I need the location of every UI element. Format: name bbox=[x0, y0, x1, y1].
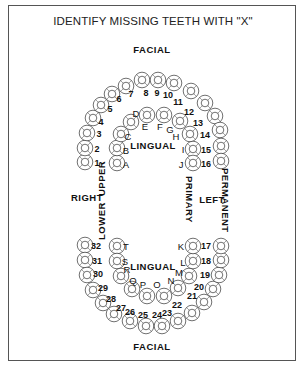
tooth-label-16: 16 bbox=[201, 159, 211, 169]
tooth-label-20: 20 bbox=[194, 282, 204, 292]
tooth-occlusal-icon bbox=[89, 286, 97, 294]
tooth-H[interactable] bbox=[182, 126, 198, 142]
tooth-label-4: 4 bbox=[98, 117, 103, 127]
tooth-14[interactable] bbox=[212, 122, 228, 138]
tooth-P[interactable] bbox=[139, 288, 155, 304]
tooth-23[interactable] bbox=[170, 313, 186, 329]
tooth-occlusal-icon bbox=[160, 111, 168, 119]
tooth-occlusal-icon bbox=[126, 317, 134, 325]
tooth-label-Q: Q bbox=[129, 275, 136, 286]
tooth-occlusal-icon bbox=[81, 241, 89, 249]
tooth-occlusal-icon bbox=[187, 87, 195, 95]
tooth-occlusal-icon bbox=[209, 285, 217, 293]
tooth-label-15: 15 bbox=[201, 145, 211, 155]
tooth-17[interactable] bbox=[213, 238, 229, 254]
tooth-label-11: 11 bbox=[173, 97, 183, 107]
tooth-label-10: 10 bbox=[163, 90, 173, 100]
tooth-G[interactable] bbox=[172, 113, 188, 129]
tooth-occlusal-icon bbox=[158, 322, 166, 330]
tooth-occlusal-icon bbox=[217, 256, 225, 264]
tooth-label-29: 29 bbox=[98, 283, 108, 293]
tooth-L[interactable] bbox=[185, 253, 201, 269]
tooth-occlusal-icon bbox=[200, 298, 208, 306]
tooth-label-22: 22 bbox=[172, 300, 182, 310]
primary-label: PRIMARY bbox=[184, 176, 195, 223]
tooth-M[interactable] bbox=[181, 268, 197, 284]
tooth-label-3: 3 bbox=[96, 129, 101, 139]
tooth-label-K: K bbox=[178, 241, 185, 252]
tooth-I[interactable] bbox=[185, 141, 201, 157]
tooth-occlusal-icon bbox=[154, 76, 162, 84]
tooth-label-28: 28 bbox=[106, 294, 116, 304]
tooth-label-P: P bbox=[140, 279, 146, 290]
tooth-label-N: N bbox=[168, 275, 175, 286]
tooth-10[interactable] bbox=[166, 75, 182, 91]
tooth-occlusal-icon bbox=[216, 126, 224, 134]
tooth-19[interactable] bbox=[211, 267, 227, 283]
tooth-1[interactable] bbox=[77, 154, 93, 170]
tooth-occlusal-icon bbox=[217, 142, 225, 150]
tooth-occlusal-icon bbox=[188, 309, 196, 317]
tooth-label-E: E bbox=[142, 121, 148, 132]
tooth-24[interactable] bbox=[154, 318, 170, 334]
tooth-13[interactable] bbox=[207, 108, 223, 124]
tooth-label-21: 21 bbox=[187, 291, 197, 301]
tooth-label-26: 26 bbox=[125, 307, 135, 317]
lower-label: LOWER bbox=[96, 202, 107, 240]
tooth-label-6: 6 bbox=[116, 94, 121, 104]
tooth-occlusal-icon bbox=[189, 145, 197, 153]
tooth-15[interactable] bbox=[213, 138, 229, 154]
tooth-20[interactable] bbox=[205, 281, 221, 297]
facial-bottom-label: FACIAL bbox=[133, 341, 170, 352]
tooth-occlusal-icon bbox=[83, 129, 91, 137]
tooth-occlusal-icon bbox=[127, 118, 135, 126]
tooth-label-24: 24 bbox=[152, 310, 162, 320]
tooth-occlusal-icon bbox=[113, 257, 121, 265]
tooth-31[interactable] bbox=[77, 252, 93, 268]
tooth-K[interactable] bbox=[185, 238, 201, 254]
tooth-occlusal-icon bbox=[201, 99, 209, 107]
tooth-occlusal-icon bbox=[143, 111, 151, 119]
tooth-occlusal-icon bbox=[89, 114, 97, 122]
tooth-occlusal-icon bbox=[160, 292, 168, 300]
dental-chart: 12345678910111213141516ABCDEFGHIJ3231302… bbox=[0, 0, 306, 371]
tooth-label-14: 14 bbox=[200, 130, 210, 140]
tooth-occlusal-icon bbox=[138, 76, 146, 84]
tooth-3[interactable] bbox=[79, 125, 95, 141]
tooth-label-18: 18 bbox=[201, 256, 211, 266]
tooth-occlusal-icon bbox=[185, 272, 193, 280]
tooth-occlusal-icon bbox=[170, 79, 178, 87]
tooth-11[interactable] bbox=[183, 83, 199, 99]
tooth-occlusal-icon bbox=[113, 159, 121, 167]
tooth-occlusal-icon bbox=[211, 112, 219, 120]
facial-top-label: FACIAL bbox=[133, 44, 170, 55]
tooth-occlusal-icon bbox=[189, 242, 197, 250]
tooth-occlusal-icon bbox=[128, 285, 136, 293]
tooth-label-8: 8 bbox=[143, 88, 148, 98]
tooth-occlusal-icon bbox=[176, 117, 184, 125]
tooth-21[interactable] bbox=[196, 294, 212, 310]
tooth-label-A: A bbox=[123, 159, 130, 170]
tooth-occlusal-icon bbox=[81, 144, 89, 152]
tooth-label-9: 9 bbox=[154, 88, 159, 98]
tooth-2[interactable] bbox=[77, 140, 93, 156]
tooth-label-5: 5 bbox=[107, 104, 112, 114]
tooth-O[interactable] bbox=[156, 288, 172, 304]
tooth-occlusal-icon bbox=[174, 317, 182, 325]
tooth-J[interactable] bbox=[185, 155, 201, 171]
tooth-label-13: 13 bbox=[193, 118, 203, 128]
tooth-22[interactable] bbox=[184, 305, 200, 321]
tooth-occlusal-icon bbox=[108, 90, 116, 98]
tooth-8[interactable] bbox=[134, 72, 150, 88]
tooth-occlusal-icon bbox=[186, 130, 194, 138]
tooth-9[interactable] bbox=[150, 72, 166, 88]
tooth-12[interactable] bbox=[197, 95, 213, 111]
tooth-label-30: 30 bbox=[93, 269, 103, 279]
tooth-25[interactable] bbox=[138, 318, 154, 334]
tooth-label-J: J bbox=[179, 159, 184, 170]
tooth-16[interactable] bbox=[213, 153, 229, 169]
tooth-label-19: 19 bbox=[200, 270, 210, 280]
tooth-occlusal-icon bbox=[113, 242, 121, 250]
tooth-label-B: B bbox=[123, 145, 129, 156]
tooth-18[interactable] bbox=[213, 252, 229, 268]
